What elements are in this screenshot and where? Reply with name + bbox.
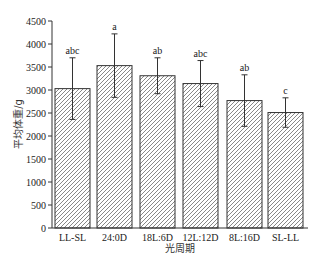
- significance-label: c: [283, 85, 288, 96]
- y-tick-label: 4000: [26, 39, 46, 50]
- significance-label: abc: [194, 48, 208, 59]
- bar-group: abc: [55, 45, 90, 228]
- bar-group: ab: [140, 45, 175, 228]
- x-tick-label: SL-LL: [272, 232, 299, 243]
- bar-group: abc: [183, 48, 218, 228]
- y-tick-label: 3500: [26, 62, 46, 73]
- y-axis-title: 平均体重/g: [12, 99, 24, 149]
- bar-group: c: [268, 85, 303, 228]
- significance-label: ab: [153, 45, 162, 56]
- y-tick-label: 4500: [26, 16, 46, 27]
- bar-chart: 050010001500200025003000350040004500 abc…: [0, 0, 320, 270]
- y-axis-ticks: 050010001500200025003000350040004500: [26, 16, 52, 234]
- y-tick-label: 1000: [26, 177, 46, 188]
- significance-label: ab: [240, 62, 249, 73]
- x-axis-labels: LL-SL24:0D18L:6D12L:12D8L:16DSL-LL: [59, 232, 299, 243]
- y-tick-label: 1500: [26, 154, 46, 165]
- x-tick-label: LL-SL: [59, 232, 86, 243]
- bar-group: ab: [227, 62, 262, 228]
- bars: abcaababcabc: [55, 21, 303, 228]
- bar-group: a: [97, 21, 132, 228]
- y-tick-label: 500: [31, 200, 46, 211]
- bar: [268, 113, 303, 228]
- y-tick-label: 0: [41, 223, 46, 234]
- x-tick-label: 8L:16D: [229, 232, 260, 243]
- x-tick-label: 24:0D: [102, 232, 127, 243]
- x-tick-label: 12L:12D: [182, 232, 218, 243]
- significance-label: abc: [66, 45, 80, 56]
- bar: [140, 76, 175, 228]
- y-tick-label: 2500: [26, 108, 46, 119]
- x-axis-title: 光周期: [165, 242, 195, 254]
- y-tick-label: 3000: [26, 85, 46, 96]
- y-tick-label: 2000: [26, 131, 46, 142]
- x-tick-label: 18L:6D: [142, 232, 173, 243]
- significance-label: a: [112, 21, 117, 32]
